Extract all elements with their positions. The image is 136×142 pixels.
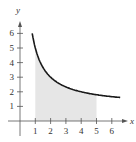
x-axis-arrow-icon (122, 119, 128, 123)
x-tick-label: 2 (48, 126, 53, 136)
y-tick-label: 6 (10, 28, 15, 38)
x-axis-label: x (129, 116, 134, 126)
y-axis-label: y (15, 5, 20, 15)
y-tick-label: 4 (10, 58, 15, 68)
x-tick-label: 5 (94, 126, 99, 136)
y-tick-label: 2 (10, 87, 15, 97)
y-tick-label: 1 (10, 101, 15, 111)
x-tick-label: 3 (64, 126, 69, 136)
y-tick-label: 3 (10, 72, 15, 82)
y-ticks: 123456 (10, 28, 24, 111)
x-tick-label: 1 (33, 126, 38, 136)
graph: 123456 123456 x y (0, 0, 136, 142)
shaded-region (35, 48, 96, 121)
y-tick-label: 5 (10, 43, 15, 53)
x-tick-label: 6 (110, 126, 115, 136)
y-axis-arrow-icon (18, 21, 22, 27)
x-tick-label: 4 (79, 126, 84, 136)
